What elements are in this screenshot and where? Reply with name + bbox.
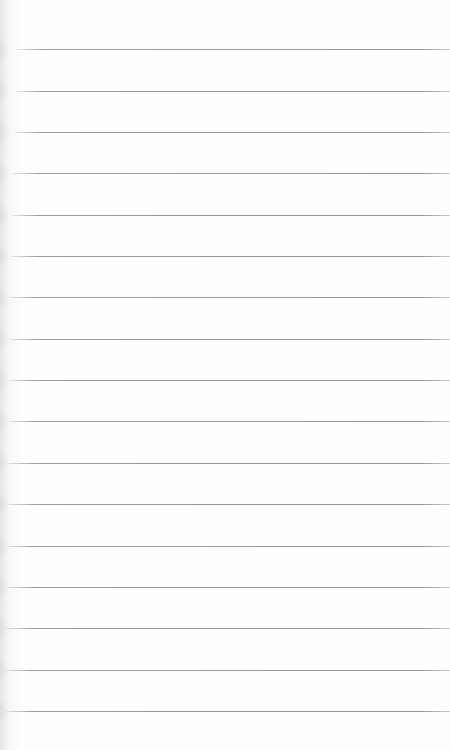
ruled-line	[15, 132, 450, 133]
ruled-line	[13, 173, 450, 174]
ruled-line	[7, 546, 450, 547]
ruled-line	[11, 256, 450, 257]
ruled-line	[17, 49, 450, 50]
ruled-line	[6, 628, 450, 629]
ruled-line	[12, 215, 450, 216]
ruled-line	[8, 463, 450, 464]
notepad-page	[0, 0, 450, 750]
ruled-line	[9, 380, 450, 381]
ruled-line	[9, 421, 450, 422]
ruled-line	[6, 711, 450, 712]
ruled-line	[6, 670, 450, 671]
ruled-line	[8, 504, 450, 505]
ruled-line	[7, 587, 450, 588]
ruled-line	[16, 91, 450, 92]
ruled-line	[10, 297, 450, 298]
ruled-line	[10, 339, 450, 340]
